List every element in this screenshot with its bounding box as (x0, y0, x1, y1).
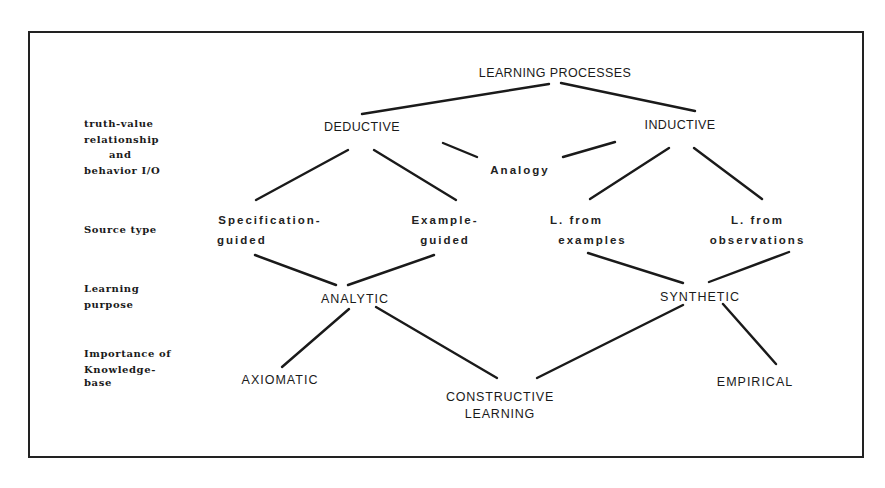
row-label-source-type: Source type (84, 222, 157, 238)
node-deductive: DEDUCTIVE (302, 116, 422, 138)
node-constructive-learning: CONSTRUCTIVE LEARNING (420, 389, 580, 423)
edge-analytic-constructive (376, 307, 497, 378)
node-line: CONSTRUCTIVE (420, 389, 580, 406)
row-label-line: Source type (84, 222, 157, 238)
edge-inductive-lex (590, 148, 669, 199)
row-label-line: base (84, 375, 171, 391)
edge-deductive-example (374, 150, 456, 200)
node-synthetic: SYNTHETIC (640, 286, 760, 308)
edge-synthetic-empirical (723, 304, 776, 364)
row-label-line: and (84, 147, 160, 163)
node-line: L. from (695, 210, 820, 230)
edge-inductive-analogy (563, 142, 615, 157)
edge-example-analytic (348, 255, 434, 285)
node-axiomatic: AXIOMATIC (225, 369, 335, 391)
edge-deductive-spec (256, 150, 348, 200)
row-label-importance: Importance of Knowledge- base (84, 346, 171, 391)
node-specification-guided: Specification- guided (195, 210, 345, 250)
row-label-line: Learning (84, 281, 139, 297)
node-line: LEARNING (420, 406, 580, 423)
edge-lex-synthetic (588, 253, 683, 283)
row-label-truth-value: truth-value relationship and behavior I/… (84, 116, 160, 178)
row-label-line: purpose (84, 297, 139, 313)
node-analytic: ANALYTIC (300, 288, 410, 310)
edge-root-deductive (362, 84, 549, 114)
node-line: examples (545, 230, 640, 250)
node-inductive: INDUCTIVE (620, 114, 740, 136)
node-line: observations (695, 230, 820, 250)
node-l-from-examples: L. from examples (545, 210, 640, 250)
node-line: guided (195, 230, 345, 250)
row-label-line: Importance of (84, 346, 171, 362)
node-l-from-observations: L. from observations (695, 210, 820, 250)
row-label-line: behavior I/O (84, 163, 160, 179)
node-learning-processes: LEARNING PROCESSES (455, 62, 655, 84)
node-example-guided: Example- guided (400, 210, 490, 250)
edge-deductive-analogy (443, 143, 477, 157)
edge-lobs-synthetic (709, 252, 789, 282)
edge-analytic-axiomatic (282, 309, 349, 367)
row-label-line: relationship (84, 132, 160, 148)
node-line: L. from (545, 210, 640, 230)
node-line: Specification- (195, 210, 345, 230)
edge-synthetic-constructive (537, 305, 683, 378)
edge-root-inductive (561, 83, 695, 111)
edge-inductive-lobs (694, 148, 762, 199)
row-label-learning-purpose: Learning purpose (84, 281, 139, 312)
edge-spec-analytic (255, 255, 336, 285)
node-analogy: Analogy (470, 159, 570, 181)
node-empirical: EMPIRICAL (700, 371, 810, 393)
row-label-line: truth-value (84, 116, 160, 132)
node-line: guided (400, 230, 490, 250)
node-line: Example- (400, 210, 490, 230)
